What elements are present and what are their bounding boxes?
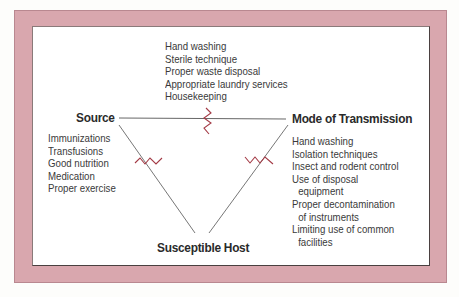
list-item: Limiting use of common: [292, 223, 399, 236]
list-item: Proper waste disposal: [165, 65, 288, 78]
list-item: Housekeeping: [165, 90, 288, 103]
zigzag-break-icon: [204, 108, 211, 134]
list-item: Hand washing: [165, 40, 288, 53]
zigzag-break-icon: [135, 158, 162, 164]
list-item: Immunizations: [48, 132, 116, 145]
edge-transmission-host: [209, 125, 288, 233]
zigzag-break-icon: [245, 157, 273, 164]
list-item: Good nutrition: [48, 157, 116, 170]
edge-source-transmission: [119, 118, 286, 119]
list-item: Hand washing: [292, 135, 399, 148]
transmission-intervention-list: Hand washing Isolation techniques Insect…: [292, 135, 399, 248]
node-mode-of-transmission: Mode of Transmission: [292, 111, 412, 126]
list-item: Isolation techniques: [292, 148, 399, 161]
list-item: Use of disposal: [292, 173, 399, 186]
source-intervention-list: Immunizations Transfusions Good nutritio…: [48, 132, 116, 195]
list-item-continuation: of instruments: [292, 211, 399, 224]
list-item-continuation: equipment: [292, 185, 399, 198]
list-item: Appropriate laundry services: [165, 78, 288, 91]
edge-source-host: [119, 125, 195, 233]
node-susceptible-host: Susceptible Host: [157, 240, 249, 255]
list-item: Proper exercise: [48, 182, 116, 195]
list-item: Medication: [48, 170, 116, 183]
list-item: Proper decontamination: [292, 198, 399, 211]
list-item: Sterile technique: [165, 53, 288, 66]
list-item: Transfusions: [48, 145, 116, 158]
node-source: Source: [76, 110, 115, 125]
list-item-continuation: facilities: [292, 236, 399, 249]
edge-intervention-list: Hand washing Sterile technique Proper wa…: [165, 40, 288, 103]
list-item: Insect and rodent control: [292, 160, 399, 173]
